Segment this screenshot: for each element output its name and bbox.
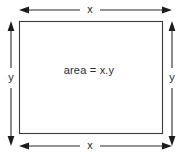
arrow-right-icon <box>162 7 172 14</box>
arrow-left-icon <box>19 7 29 14</box>
arrow-left-icon <box>19 143 29 150</box>
right-height-label: y <box>169 71 175 83</box>
left-height-label: y <box>8 71 14 83</box>
top-width-arrow: x <box>19 3 172 15</box>
arrow-right-icon <box>162 143 172 150</box>
arrow-up-icon <box>169 21 176 31</box>
bottom-width-arrow: x <box>19 139 172 151</box>
figure-canvas: x x y y area = x.y <box>0 0 182 159</box>
arrow-down-icon <box>169 136 176 146</box>
top-width-label: x <box>87 3 93 15</box>
rectangle-area-figure: x x y y area = x.y <box>0 0 182 159</box>
arrow-up-icon <box>8 21 15 31</box>
bottom-width-label: x <box>87 139 93 151</box>
area-rectangle <box>20 22 163 134</box>
right-height-arrow: y <box>169 21 176 146</box>
arrow-down-icon <box>8 136 15 146</box>
area-formula-label: area = x.y <box>64 64 115 76</box>
left-height-arrow: y <box>8 21 15 146</box>
